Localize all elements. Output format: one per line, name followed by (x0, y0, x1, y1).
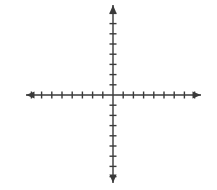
coordinate-plane-svg (0, 0, 217, 190)
coordinate-plane-figure (0, 0, 217, 190)
